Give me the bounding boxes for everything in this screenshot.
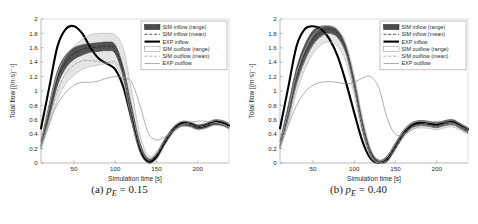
caption-a: (a) pE = 0.15 xyxy=(0,183,239,198)
legend: SIM inflow (range)SIM inflow (mean)EXP i… xyxy=(141,21,227,70)
y-tick-label: 0.4 xyxy=(29,130,38,137)
figure-two-panel: 00.20.40.60.811.21.41.61.8250100150200Si… xyxy=(0,0,478,224)
legend-label: EXP outflow xyxy=(163,60,192,66)
x-tick-label: 100 xyxy=(110,165,121,172)
chart-svg-a: 00.20.40.60.811.21.41.61.8250100150200Si… xyxy=(0,0,239,184)
caption-b-sub: E xyxy=(351,189,356,198)
x-axis-title: Simulation time [s] xyxy=(347,175,401,183)
x-tick-label: 200 xyxy=(193,165,204,172)
legend-swatch-band-dark xyxy=(145,24,161,29)
panel-a: 00.20.40.60.811.21.41.61.8250100150200Si… xyxy=(0,0,239,224)
x-tick-label: 150 xyxy=(390,165,401,172)
legend-swatch-band-dark xyxy=(384,24,400,29)
legend-label: SIM outflow (mean) xyxy=(402,53,449,59)
y-tick-label: 0 xyxy=(34,159,38,166)
y-tick-label: 0.2 xyxy=(29,145,38,152)
y-tick-label: 0 xyxy=(273,159,277,166)
legend-item[interactable]: SIM outflow (range) xyxy=(384,46,449,52)
plot-area-a: 00.20.40.60.811.21.41.61.8250100150200Si… xyxy=(0,0,239,184)
y-tick-label: 1.4 xyxy=(268,58,277,65)
y-tick-label: 0.6 xyxy=(29,116,38,123)
legend-label: SIM outflow (mean) xyxy=(163,53,210,59)
legend-label: EXP outflow xyxy=(402,60,431,66)
y-tick-label: 1.6 xyxy=(268,44,277,51)
y-tick-label: 1.4 xyxy=(29,58,38,65)
x-tick-label: 150 xyxy=(151,165,162,172)
caption-b-eq: = 0.40 xyxy=(359,183,387,195)
legend-item[interactable]: SIM inflow (range) xyxy=(145,24,207,30)
y-tick-label: 0.8 xyxy=(268,102,277,109)
y-tick-label: 1.8 xyxy=(29,30,38,37)
legend-label: EXP inflow xyxy=(402,39,428,45)
y-tick-label: 1 xyxy=(34,87,38,94)
x-axis-title: Simulation time [s] xyxy=(108,175,162,183)
series-line-exp-outflow xyxy=(280,76,468,147)
x-tick-label: 50 xyxy=(310,165,317,172)
y-tick-label: 1.2 xyxy=(29,73,38,80)
y-tick-label: 1.6 xyxy=(29,44,38,51)
caption-b-tag: (b) xyxy=(330,183,343,195)
y-tick-label: 0.8 xyxy=(29,102,38,109)
y-tick-label: 1 xyxy=(273,87,277,94)
legend-label: SIM inflow (range) xyxy=(402,24,446,30)
legend-label: EXP inflow xyxy=(163,39,189,45)
caption-a-tag: (a) xyxy=(91,183,103,195)
legend-label: SIM outflow (range) xyxy=(402,46,449,52)
caption-a-eq: = 0.15 xyxy=(119,183,147,195)
caption-b: (b) pE = 0.40 xyxy=(239,183,478,198)
y-tick-label: 1.8 xyxy=(268,30,277,37)
legend-label: SIM inflow (mean) xyxy=(402,31,446,37)
legend-item[interactable]: SIM outflow (range) xyxy=(145,46,210,52)
legend-label: SIM inflow (range) xyxy=(163,24,207,30)
plot-area-b: 00.20.40.60.811.21.41.61.8250100150200Si… xyxy=(239,0,478,184)
y-tick-label: 1.2 xyxy=(268,73,277,80)
y-tick-label: 2 xyxy=(34,15,38,22)
legend-label: SIM inflow (mean) xyxy=(163,31,207,37)
y-tick-label: 2 xyxy=(273,15,277,22)
chart-svg-b: 00.20.40.60.811.21.41.61.8250100150200Si… xyxy=(239,0,478,184)
legend-swatch-band-light xyxy=(384,46,400,51)
legend: SIM inflow (range)SIM inflow (mean)EXP i… xyxy=(380,21,466,70)
y-tick-label: 0.4 xyxy=(268,130,277,137)
y-tick-label: 0.6 xyxy=(268,116,277,123)
legend-label: SIM outflow (range) xyxy=(163,46,210,52)
y-tick-label: 0.2 xyxy=(268,145,277,152)
legend-item[interactable]: SIM inflow (range) xyxy=(384,24,446,30)
x-tick-label: 50 xyxy=(71,165,78,172)
y-axis-title: Total flow [(m·s)⁻¹] xyxy=(9,64,17,119)
y-axis-title: Total flow [(m·s)⁻¹] xyxy=(248,64,256,119)
panel-b: 00.20.40.60.811.21.41.61.8250100150200Si… xyxy=(239,0,478,224)
caption-a-sub: E xyxy=(112,189,117,198)
legend-swatch-band-light xyxy=(145,46,161,51)
x-tick-label: 100 xyxy=(349,165,360,172)
x-tick-label: 200 xyxy=(432,165,443,172)
